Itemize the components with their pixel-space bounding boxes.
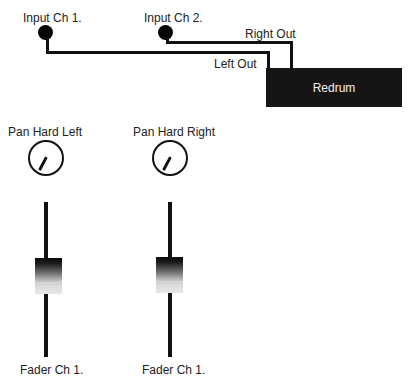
pan-ch1-label: Pan Hard Left <box>8 125 82 139</box>
fader-handle-ch2[interactable] <box>156 257 183 293</box>
right-out-cable-vertical <box>290 41 293 69</box>
pan-ch2-label: Pan Hard Right <box>133 125 215 139</box>
ch1-cable-horizontal <box>46 51 270 54</box>
pan-knob-ch2[interactable] <box>152 140 188 176</box>
redrum-label: Redrum <box>313 81 356 95</box>
input-ch1-label: Input Ch 1. <box>23 11 82 25</box>
input-ch2-label: Input Ch 2. <box>144 11 203 25</box>
fader-ch1-label: Fader Ch 1. <box>20 363 83 377</box>
left-out-cable-vertical <box>267 51 270 69</box>
fader-ch2-label: Fader Ch 1. <box>142 363 205 377</box>
redrum-device[interactable]: Redrum <box>266 68 402 107</box>
pan-knob-ch1[interactable] <box>28 140 64 176</box>
ch2-cable-horizontal <box>166 41 293 44</box>
fader-handle-ch1[interactable] <box>35 258 62 294</box>
right-out-label: Right Out <box>245 27 296 41</box>
knob-pointer-icon <box>38 156 48 171</box>
knob-pointer-icon <box>162 156 172 171</box>
left-out-label: Left Out <box>214 57 257 71</box>
